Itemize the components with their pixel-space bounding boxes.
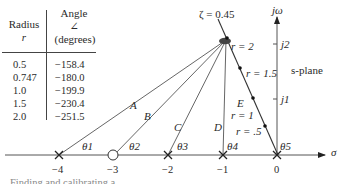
vector-A [59, 40, 226, 155]
r05-label: r = .5 [236, 125, 261, 137]
tick-label-0: 0 [274, 164, 279, 175]
j1-label: j1 [281, 93, 290, 105]
theta1-label: θ1 [82, 140, 93, 152]
vector-D-label: D [214, 121, 222, 133]
vector-D [223, 40, 226, 155]
r15-label: r = 1.5 [246, 67, 277, 79]
r2-dot [225, 36, 229, 40]
j2-label: j2 [281, 38, 290, 50]
r1-label: r = 1 [231, 109, 254, 121]
r15-dot [238, 66, 242, 70]
tick-label-neg3: −3 [107, 164, 118, 175]
theta5-label: θ5 [280, 140, 291, 152]
vector-C-label: C [174, 121, 181, 133]
s-plane-diagram [0, 0, 343, 184]
r05-dot [263, 124, 267, 128]
tick-label-neg4: −4 [52, 164, 63, 175]
footer-fragment: Finding and calibrating a ... [10, 177, 126, 184]
tick-label-neg2: −2 [162, 164, 173, 175]
vector-C [168, 40, 226, 155]
s-plane-label: s-plane [291, 64, 323, 76]
r2-label: r = 2 [231, 40, 254, 52]
r1-dot [251, 96, 255, 100]
theta4-label: θ4 [227, 140, 238, 152]
jw-label: jω [272, 4, 283, 16]
theta2-label: θ2 [129, 140, 140, 152]
theta3-label: θ3 [177, 140, 188, 152]
test-point-cluster [219, 38, 231, 44]
vector-A-label: A [130, 99, 137, 111]
vector-B [114, 40, 226, 155]
vector-B-label: B [144, 110, 151, 122]
zero-marker [108, 150, 118, 160]
vector-E-label: E [237, 97, 244, 109]
tick-label-neg1: −1 [217, 164, 228, 175]
sigma-label: σ [331, 146, 336, 158]
zeta-label: ζ = 0.45 [199, 8, 235, 20]
